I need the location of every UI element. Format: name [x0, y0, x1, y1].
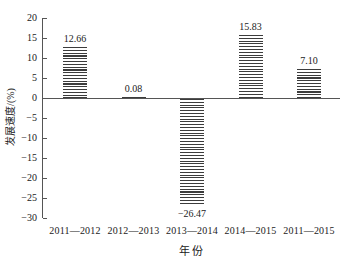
x-tick-label: 2012—2013: [103, 225, 165, 236]
y-tick-label: −10: [0, 132, 37, 143]
y-tick-label: 0: [0, 92, 37, 103]
chart-container: 发展速度/(%) 20151050−5−10−15−20−25−3012.662…: [0, 0, 348, 264]
y-tick-label: 15: [0, 32, 37, 43]
bar: [239, 35, 263, 98]
y-tick-mark: [43, 58, 47, 59]
y-tick-mark: [43, 98, 47, 99]
y-tick-mark: [43, 158, 47, 159]
bar-value-label: 0.08: [104, 83, 164, 94]
bar-value-label: 15.83: [221, 21, 281, 32]
bar: [297, 69, 321, 97]
x-tick-label: 2013—2014: [161, 225, 223, 236]
bar-value-label: −26.47: [162, 208, 222, 219]
y-tick-mark: [43, 18, 47, 19]
x-tick-label: 2014—2015: [220, 225, 282, 236]
y-tick-label: 20: [0, 12, 37, 23]
y-tick-mark: [43, 198, 47, 199]
y-tick-mark: [43, 138, 47, 139]
y-tick-mark: [43, 118, 47, 119]
y-tick-label: −5: [0, 112, 37, 123]
y-tick-label: 5: [0, 72, 37, 83]
bar-value-label: 12.66: [45, 33, 105, 44]
plot-area: 20151050−5−10−15−20−25−3012.662011—20120…: [0, 0, 348, 264]
y-tick-mark: [43, 78, 47, 79]
y-tick-mark: [43, 178, 47, 179]
y-tick-label: −15: [0, 152, 37, 163]
y-tick-mark: [43, 218, 47, 219]
x-tick-label: 2011—2012: [44, 225, 106, 236]
x-tick-label: 2011—2015: [278, 225, 340, 236]
bar-value-label: 7.10: [279, 55, 339, 66]
y-tick-label: −25: [0, 192, 37, 203]
bar: [63, 47, 87, 98]
y-tick-label: −30: [0, 212, 37, 223]
bar: [180, 99, 204, 205]
y-tick-label: −20: [0, 172, 37, 183]
y-tick-label: 10: [0, 52, 37, 63]
x-axis-title: 年 份: [141, 242, 241, 258]
